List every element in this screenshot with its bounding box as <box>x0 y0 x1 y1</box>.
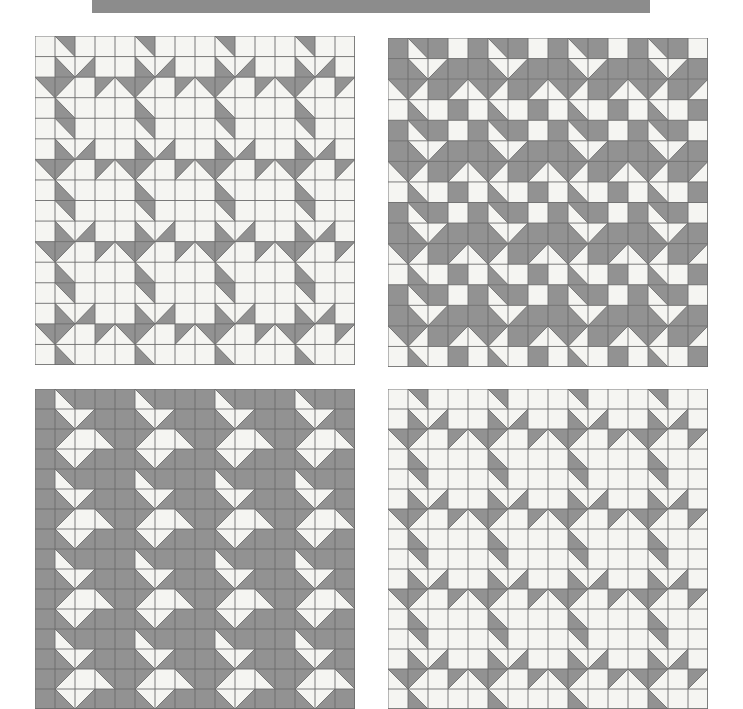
top-gray-banner <box>92 0 650 13</box>
quilt-top-left <box>35 36 355 365</box>
quilt-top-right <box>388 38 708 367</box>
quilt-bottom-left <box>35 389 355 709</box>
quilt-bottom-right <box>388 389 708 709</box>
